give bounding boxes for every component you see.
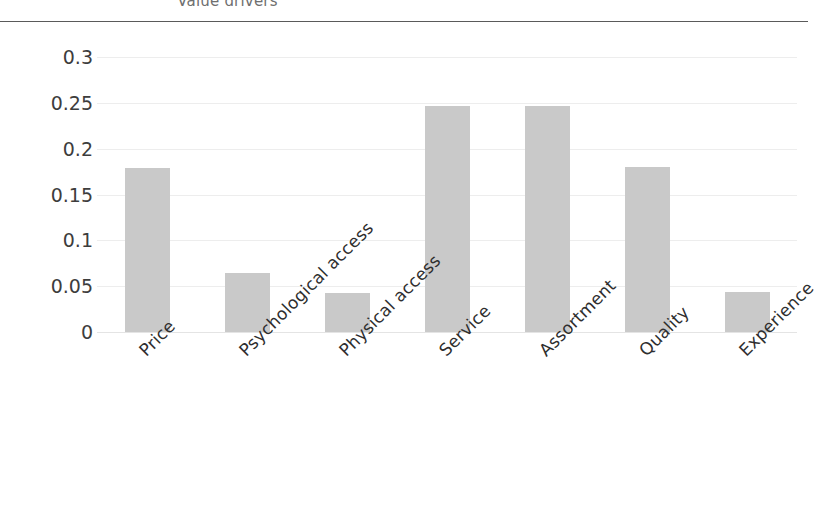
bar[interactable] (425, 106, 470, 332)
y-axis-tick-label: 0.3 (7, 48, 93, 67)
bar[interactable] (525, 106, 570, 332)
bar[interactable] (125, 168, 170, 332)
y-axis-tick-label: 0 (7, 323, 93, 342)
bar[interactable] (625, 167, 670, 332)
y-axis-tick-label: 0.05 (7, 277, 93, 296)
chart-title: Value drivers (0, 0, 455, 10)
y-axis-tick-label: 0.25 (7, 93, 93, 112)
x-axis: PricePsychological accessPhysical access… (97, 332, 797, 492)
title-divider (0, 21, 808, 22)
bar-series (97, 57, 797, 332)
y-axis: 00.050.10.150.20.250.3 (0, 57, 93, 332)
y-axis-tick-label: 0.15 (7, 185, 93, 204)
y-axis-tick-label: 0.1 (7, 231, 93, 250)
y-axis-tick-label: 0.2 (7, 139, 93, 158)
